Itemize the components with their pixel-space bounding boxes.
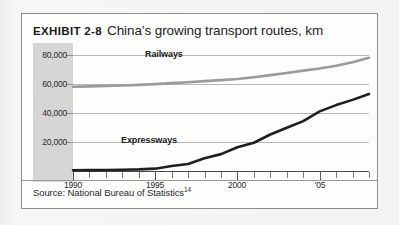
chart-series-svg xyxy=(73,43,369,182)
chart-canvas: 20,00040,00060,00080,000 199019952000'05… xyxy=(73,43,369,182)
y-tick-mark xyxy=(66,142,73,143)
y-axis-label: 40,000 xyxy=(9,108,67,118)
x-tick-mark-2008 xyxy=(369,172,370,178)
y-axis-label: 20,000 xyxy=(9,137,67,147)
series-line-railways xyxy=(73,58,369,87)
y-tick-mark xyxy=(66,84,73,85)
y-axis-label: 80,000 xyxy=(9,50,67,60)
source-footnote-marker: 14 xyxy=(184,186,191,193)
exhibit-title-row: EXHIBIT 2-8China’s growing transport rou… xyxy=(33,21,369,41)
series-label-railways: Railways xyxy=(145,49,183,59)
source-note-text: Source: National Bureau of Statistics xyxy=(33,187,184,198)
source-note: Source: National Bureau of Statistics14 xyxy=(33,186,191,198)
footer-divider xyxy=(22,180,377,181)
y-tick-mark xyxy=(66,113,73,114)
scanned-page: EXHIBIT 2-8China’s growing transport rou… xyxy=(0,0,399,225)
exhibit-number-label: EXHIBIT 2-8 xyxy=(33,25,102,37)
chart-plot-region: 20,00040,00060,00080,000 199019952000'05… xyxy=(33,43,369,182)
y-axis-label: 60,000 xyxy=(9,79,67,89)
series-label-expressways: Expressways xyxy=(121,135,177,145)
exhibit-title-text: China’s growing transport routes, km xyxy=(107,23,323,38)
y-tick-mark xyxy=(66,55,73,56)
series-line-expressways xyxy=(73,94,369,170)
exhibit-figure: EXHIBIT 2-8China’s growing transport rou… xyxy=(21,13,378,209)
